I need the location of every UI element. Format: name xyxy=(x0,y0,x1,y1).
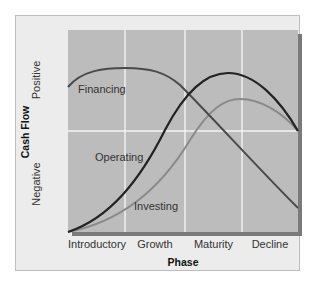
grid-lines xyxy=(68,30,298,232)
x-tick-decline: Decline xyxy=(242,238,298,250)
x-axis-title: Phase xyxy=(68,256,298,268)
x-tick-introductory: Introductory xyxy=(68,238,125,250)
operating-label: Operating xyxy=(95,151,143,163)
financing-label: Financing xyxy=(78,83,126,95)
investing-label: Investing xyxy=(134,200,178,212)
y-tick-positive: Positive xyxy=(30,55,42,105)
x-tick-growth: Growth xyxy=(125,238,185,250)
y-tick-negative: Negative xyxy=(30,159,42,209)
x-tick-maturity: Maturity xyxy=(185,238,242,250)
y-axis-title: Cash Flow xyxy=(19,102,31,162)
